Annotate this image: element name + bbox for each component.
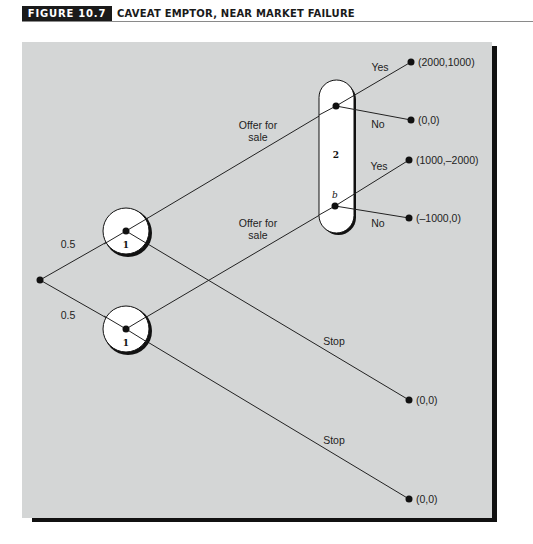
prob-label-upper: 0.5 [61,238,76,250]
edge-upper-offer [126,106,336,231]
offer-label-lower-2: sale [248,229,267,241]
no-label-lower: No [371,217,385,229]
prob-label-lower: 0.5 [61,309,76,321]
terminal-dot [406,496,413,503]
terminal-dot [406,157,413,164]
p1-dot-lower [123,326,130,333]
terminal-dot [408,59,415,66]
payoff-upper-stop: (0,0) [416,394,438,406]
p2-dot-lower [332,203,339,210]
player2-label: 2 [333,150,339,160]
payoff-lower-stop: (0,0) [416,493,438,505]
yes-label-upper: Yes [371,61,388,73]
payoff-upper-no: (0,0) [418,114,440,126]
p2-dot-upper [333,103,340,110]
edge-upper-stop [126,231,409,400]
yes-label-lower: Yes [370,160,387,172]
offer-label-lower-1: Offer for [239,217,278,229]
payoff-lower-no: (–1000,0) [416,212,461,224]
no-label-upper: No [371,118,385,130]
terminal-dot [406,397,413,404]
player1-label-upper: 1 [123,240,129,250]
payoff-lower-yes: (1000,–2000) [416,154,478,166]
root-node [37,277,44,284]
offer-label-upper-2: sale [248,131,267,143]
stop-label-upper: Stop [323,335,345,347]
terminal-dot [408,117,415,124]
info-node-b-label: b [332,190,338,200]
terminal-dot [406,215,413,222]
stop-label-lower: Stop [323,434,345,446]
offer-label-upper-1: Offer for [239,119,278,131]
edge-lower-offer [126,206,335,329]
game-tree: 1 1 2 b 0.5 0.5 Of [0,0,533,544]
player1-label-lower: 1 [123,338,129,348]
p1-dot-upper [123,228,130,235]
payoff-upper-yes: (2000,1000) [418,56,475,68]
edge-lower-stop [126,329,409,499]
